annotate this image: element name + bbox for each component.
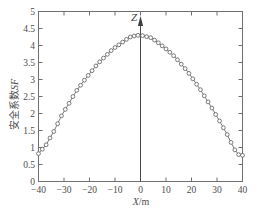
y-axis-title-symbol: SF (9, 79, 20, 90)
x-axis-title: X/m (133, 196, 150, 207)
data-point-marker (145, 35, 149, 39)
data-point-marker (67, 101, 71, 105)
data-point-marker (79, 83, 83, 87)
x-tick-label: 0 (138, 185, 143, 195)
data-point-marker (52, 130, 56, 134)
data-point-marker (153, 38, 157, 42)
data-point-marker (90, 69, 94, 73)
data-point-marker (164, 47, 168, 51)
y-axis-title: 安全系数SF (6, 50, 21, 160)
data-point-marker (172, 54, 176, 58)
data-point-marker (168, 50, 172, 54)
data-point-marker (56, 122, 60, 126)
data-point-marker (109, 49, 113, 53)
x-tick-label: −10 (108, 185, 123, 195)
data-point-marker (183, 67, 187, 71)
data-point-marker (195, 82, 199, 86)
data-point-marker (121, 40, 125, 44)
data-point-marker (179, 62, 183, 66)
data-point-marker (102, 56, 106, 60)
data-point-marker (113, 46, 117, 50)
data-point-marker (199, 88, 203, 92)
x-tick-label: 10 (161, 185, 171, 195)
data-point-marker (86, 74, 90, 78)
x-tick-label: −20 (82, 185, 97, 195)
data-point-marker (221, 126, 225, 130)
data-point-marker (237, 153, 241, 157)
data-point-marker (191, 77, 195, 81)
y-tick-label: 4.5 (10, 24, 35, 34)
chart-figure: −40−30−20−1001020304000.511.522.533.544.… (0, 0, 259, 214)
data-point-marker (149, 36, 153, 40)
data-point-marker (117, 43, 121, 47)
data-point-marker (37, 152, 41, 156)
data-point-marker (71, 95, 75, 99)
y-tick-label: 5 (10, 7, 35, 17)
data-point-marker (44, 143, 48, 147)
data-point-marker (229, 141, 233, 145)
data-point-marker (141, 34, 145, 38)
data-point-marker (105, 52, 109, 56)
data-point-marker (156, 41, 160, 45)
data-point-marker (202, 94, 206, 98)
y-tick-label: 0.5 (10, 160, 35, 170)
data-point-marker (60, 114, 64, 118)
data-point-marker (176, 58, 180, 62)
data-point-marker (83, 78, 87, 82)
data-point-marker (136, 33, 140, 37)
data-point-marker (206, 100, 210, 104)
data-point-marker (241, 153, 245, 157)
data-point-marker (233, 148, 237, 152)
data-point-marker (210, 106, 214, 110)
data-point-marker (128, 35, 132, 39)
data-point-marker (214, 113, 218, 117)
data-point-marker (94, 64, 98, 68)
x-tick-label: 20 (187, 185, 197, 195)
x-tick-label: −30 (57, 185, 72, 195)
data-point-marker (125, 37, 129, 41)
data-point-marker (75, 88, 79, 92)
data-point-marker (63, 108, 67, 112)
data-point-marker (132, 34, 136, 38)
data-point-marker (48, 136, 52, 140)
x-tick-label: 30 (212, 185, 222, 195)
plot-canvas (0, 0, 259, 214)
x-axis-unit: /m (139, 196, 150, 207)
x-tick-label: 40 (238, 185, 248, 195)
data-point-marker (225, 133, 229, 137)
data-point-marker (40, 147, 44, 151)
data-point-marker (187, 71, 191, 75)
y-axis-title-cn: 安全系数 (9, 90, 20, 130)
data-point-marker (218, 119, 222, 123)
z-axis-label: Z (131, 11, 137, 23)
y-tick-label: 0 (10, 177, 35, 187)
data-point-marker (98, 60, 102, 64)
data-point-marker (160, 44, 164, 48)
